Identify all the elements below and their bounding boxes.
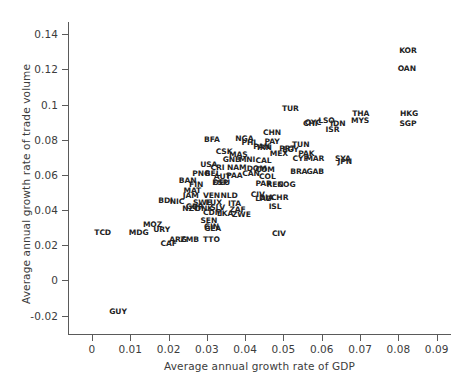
- x-tick-label: 0.02: [157, 343, 181, 355]
- data-point-label: CAF: [160, 241, 176, 249]
- y-tick-label: 0: [51, 274, 58, 286]
- data-point-label: KOR: [399, 47, 417, 55]
- x-tick-label: 0.07: [348, 343, 372, 355]
- data-points-layer: KOROANTURTHAHKGMYSSGPLSOIDNOYCCHIISRBFAC…: [69, 22, 451, 334]
- data-point-label: CHR: [271, 194, 288, 202]
- plot-area: KOROANTURTHAHKGMYSSGPLSOIDNOYCCHIISRBFAC…: [68, 22, 451, 335]
- data-point-label: JPN: [338, 159, 352, 167]
- x-tick-label: 0.03: [195, 343, 219, 355]
- data-point-label: OAN: [398, 65, 416, 73]
- data-point-label: TTO: [203, 237, 220, 245]
- x-tick-label: 0.08: [386, 343, 410, 355]
- data-point-label: ZMB: [180, 237, 199, 245]
- scatter-chart: KOROANTURTHAHKGMYSSGPLSOIDNOYCCHIISRBFAC…: [0, 0, 475, 391]
- y-axis-title: Average annual growth rate of trade volu…: [20, 54, 32, 314]
- y-tick-mark: [62, 105, 68, 106]
- data-point-label: MEX: [270, 150, 288, 158]
- data-point-label: ISR: [326, 126, 340, 134]
- y-tick-mark: [62, 316, 68, 317]
- x-tick-mark: [169, 335, 170, 341]
- y-tick-mark: [62, 175, 68, 176]
- x-tick-label: 0: [89, 343, 96, 355]
- y-tick-label: -0.02: [30, 310, 58, 322]
- y-tick-mark: [62, 210, 68, 211]
- data-point-label: MAR: [305, 155, 324, 163]
- y-tick-label: 0.14: [34, 28, 58, 40]
- x-tick-mark: [322, 335, 323, 341]
- x-tick-label: 0.05: [272, 343, 296, 355]
- y-tick-mark: [62, 280, 68, 281]
- y-tick-label: 0.04: [34, 204, 58, 216]
- data-point-label: CHI: [303, 121, 317, 129]
- x-tick-mark: [437, 335, 438, 341]
- y-tick-label: 0.06: [34, 169, 58, 181]
- x-tick-mark: [130, 335, 131, 341]
- x-tick-mark: [245, 335, 246, 341]
- x-tick-mark: [283, 335, 284, 341]
- data-point-label: SGP: [399, 121, 416, 129]
- data-point-label: BRA: [290, 168, 307, 176]
- y-tick-mark: [62, 245, 68, 246]
- data-point-label: TUR: [282, 105, 299, 113]
- x-tick-label: 0.04: [233, 343, 257, 355]
- data-point-label: COG: [278, 181, 296, 189]
- x-tick-mark: [360, 335, 361, 341]
- x-tick-label: 0.06: [310, 343, 334, 355]
- data-point-label: GUY: [109, 309, 127, 317]
- data-point-label: ISL: [269, 203, 282, 211]
- data-point-label: GEA: [204, 225, 221, 233]
- data-point-label: HKG: [400, 111, 418, 119]
- data-point-label: CAN: [242, 171, 260, 179]
- x-tick-label: 0.01: [118, 343, 142, 355]
- data-point-label: MYS: [351, 118, 369, 126]
- data-point-label: MDG: [129, 230, 149, 238]
- data-point-label: LKA: [217, 210, 233, 218]
- y-tick-label: 0.02: [34, 239, 58, 251]
- y-tick-label: 0.08: [34, 134, 58, 146]
- y-tick-mark: [62, 140, 68, 141]
- x-tick-mark: [92, 335, 93, 341]
- x-tick-mark: [398, 335, 399, 341]
- y-tick-mark: [62, 69, 68, 70]
- data-point-label: URY: [153, 226, 170, 234]
- data-point-label: CIV: [272, 231, 286, 239]
- y-tick-label: 0.12: [34, 63, 58, 75]
- x-tick-mark: [207, 335, 208, 341]
- y-tick-mark: [62, 34, 68, 35]
- y-tick-label: 0.1: [41, 99, 58, 111]
- data-point-label: TCD: [94, 229, 111, 237]
- x-tick-label: 0.09: [425, 343, 449, 355]
- data-point-label: BFA: [204, 136, 220, 144]
- data-point-label: CHN: [263, 129, 281, 137]
- x-axis-title: Average annual growth rate of GDP: [68, 360, 451, 372]
- data-point-label: DEU: [213, 180, 230, 188]
- data-point-label: ZWE: [232, 211, 251, 219]
- data-point-label: GAB: [306, 168, 324, 176]
